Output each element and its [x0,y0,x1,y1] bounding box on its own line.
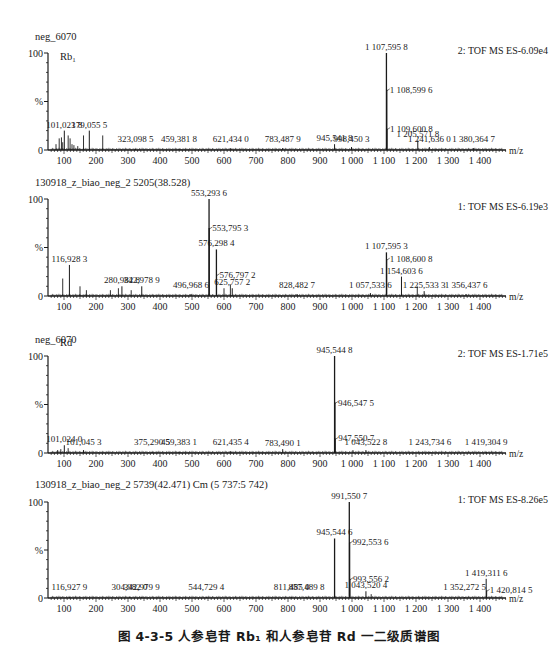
x-tick-label: 1 400 [469,603,492,614]
x-tick-label: 1 100 [373,603,396,614]
y-tick-label: 100 [28,48,43,59]
x-tick-label: 1 300 [437,458,460,469]
compound-label: Rb₁ [60,51,76,62]
x-tick-label: 300 [121,301,136,312]
x-tick-label: 1 100 [373,155,396,166]
x-tick-label: 100 [57,603,72,614]
peak-label: 342,979 9 [124,582,161,592]
peak-label: 161,045 3 [66,437,103,447]
x-tick-label: 900 [313,458,328,469]
instrument-label: 1: TOF MS ES-8.26e5 [458,494,548,505]
x-tick-label: 500 [185,603,200,614]
x-tick-label: 900 [313,603,328,614]
y-tick-label: 100 [28,351,43,362]
spectrum-panel-2: 130918_z_biao_neg_2 5205(38.528)1: TOF M… [28,177,548,312]
x-tick-label: 800 [281,603,296,614]
x-tick-label: 1 300 [437,301,460,312]
x-tick-label: 1 400 [469,155,492,166]
y-tick-label: 100 [28,194,43,205]
x-tick-label: 400 [153,155,168,166]
y-tick-label: % [35,399,43,410]
y-tick-label: 0 [38,291,43,302]
x-tick-label: 400 [153,301,168,312]
x-tick-label: 600 [217,155,232,166]
peak-label: 1 419,304 9 [465,437,508,447]
peak-label: 1 243,734 6 [409,437,452,447]
x-tick-label: 200 [89,458,104,469]
peak-label: 621,435 4 [213,437,250,447]
peak-label: 945,544 8 [317,345,354,355]
x-tick-label: 1 300 [437,155,460,166]
x-tick-label: 100 [57,155,72,166]
x-tick-label: 900 [313,301,328,312]
x-unit-label: m/z [509,292,523,302]
spectrum-panel-3: neg_6070Rd2: TOF MS ES-1.71e5100%0100200… [28,334,548,469]
x-tick-label: 1 000 [341,458,364,469]
figure-caption: 图 4-3-5 人参皂苷 Rb₁ 和人参皂苷 Rd 一二级质谱图 [0,626,558,645]
peak-label: 323,098 5 [117,134,154,144]
peak-label: 992,553 6 [353,537,390,547]
x-tick-label: 800 [281,155,296,166]
x-tick-label: 100 [57,458,72,469]
panel-title: 130918_z_biao_neg_2 5739(42.471) Cm (5 7… [35,479,268,491]
x-tick-label: 300 [121,603,136,614]
x-tick-label: 1 100 [373,301,396,312]
x-tick-label: 800 [281,458,296,469]
x-tick-label: 700 [249,603,264,614]
x-tick-label: 1 300 [437,603,460,614]
x-tick-label: 200 [89,301,104,312]
panel-title: neg_6070 [35,31,76,42]
peak-label: 553,795 3 [212,223,249,233]
peak-label: 1 107,595 3 [365,241,408,251]
x-unit-label: m/z [509,146,523,156]
instrument-label: 2: TOF MS ES-6.09e4 [458,45,548,56]
y-tick-label: % [35,242,43,253]
x-tick-label: 1 200 [405,458,428,469]
x-tick-label: 700 [249,301,264,312]
peak-label: 1 352,272 5 [443,582,486,592]
spectrum-panel-4: 130918_z_biao_neg_2 5739(42.471) Cm (5 7… [28,479,548,614]
x-tick-label: 800 [281,301,296,312]
y-tick-label: 100 [28,497,43,508]
x-tick-label: 600 [217,301,232,312]
x-tick-label: 1 200 [405,603,428,614]
peak-label: 553,293 6 [191,188,228,198]
x-tick-label: 900 [313,155,328,166]
peak-label: 1 043,520 4 [345,580,388,590]
x-tick-label: 500 [185,155,200,166]
peak-label: 1 154,603 6 [380,266,423,276]
peak-label: 1 356,437 6 [445,280,488,290]
peak-label: 1 108,600 8 [390,254,433,264]
x-tick-label: 700 [249,458,264,469]
peak-label: 179,055 5 [71,120,108,130]
x-tick-label: 1 200 [405,155,428,166]
peak-label: 625,757 2 [214,277,250,287]
peak-label: 857,489 8 [288,582,325,592]
spectrum-panel-1: neg_6070Rb₁2: TOF MS ES-6.09e4100%010020… [28,31,548,166]
y-tick-label: 0 [38,593,43,604]
x-tick-label: 700 [249,155,264,166]
peak-label: 1 043,522 8 [345,437,388,447]
x-tick-label: 400 [153,603,168,614]
peak-label: 783,490 1 [265,438,301,448]
x-tick-label: 1 400 [469,301,492,312]
x-unit-label: m/z [509,449,523,459]
peak-label: 1 241,636 0 [408,134,451,144]
panel-title: 130918_z_biao_neg_2 5205(38.528) [35,177,191,189]
peak-label: 1 107,595 8 [365,42,408,52]
peak-label: 576,298 4 [198,238,235,248]
y-tick-label: % [35,96,43,107]
peak-label: 1 380,364 7 [452,134,495,144]
x-tick-label: 500 [185,458,200,469]
x-tick-label: 500 [185,301,200,312]
x-tick-label: 200 [89,603,104,614]
mass-spectra-figure: neg_6070Rb₁2: TOF MS ES-6.09e4100%010020… [0,0,558,653]
x-tick-label: 100 [57,301,72,312]
x-tick-label: 1 200 [405,301,428,312]
x-tick-label: 1 000 [341,301,364,312]
x-tick-label: 300 [121,458,136,469]
x-tick-label: 1 400 [469,458,492,469]
x-tick-label: 600 [217,458,232,469]
instrument-label: 2: TOF MS ES-1.71e5 [458,348,548,359]
peak-label: 116,928 3 [52,254,88,264]
